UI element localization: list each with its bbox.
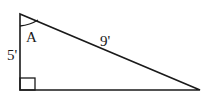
angle-a-arc <box>20 20 38 26</box>
angle-a-label: A <box>26 29 37 45</box>
vertical-side-label: 5' <box>7 47 18 63</box>
right-triangle <box>20 14 200 90</box>
right-angle-marker <box>20 78 35 90</box>
triangle-diagram: A 5' 9' <box>0 0 210 98</box>
hypotenuse-label: 9' <box>100 33 111 49</box>
